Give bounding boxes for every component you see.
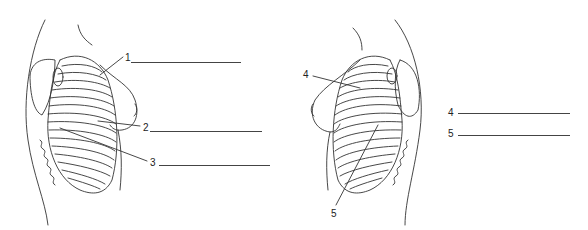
answer-label-4: 4 <box>448 108 454 118</box>
label-3: 3 <box>150 158 156 168</box>
label-5: 5 <box>331 209 337 219</box>
answer-line-1[interactable] <box>131 62 241 63</box>
right-thorax-drawing <box>311 20 421 225</box>
label-2: 2 <box>143 123 149 133</box>
anatomy-worksheet: 1 2 3 4 5 4 5 <box>0 0 588 230</box>
left-thorax-drawing <box>26 20 147 225</box>
answer-line-4[interactable] <box>458 113 570 114</box>
thorax-illustration <box>0 0 588 230</box>
label-4: 4 <box>303 70 309 80</box>
answer-line-3[interactable] <box>159 165 270 166</box>
answer-line-2[interactable] <box>150 131 262 132</box>
answer-line-5[interactable] <box>458 135 570 136</box>
answer-label-5: 5 <box>448 129 454 139</box>
label-1: 1 <box>125 53 131 63</box>
